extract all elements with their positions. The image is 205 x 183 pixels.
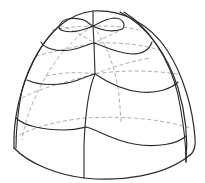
contour-4 xyxy=(16,118,186,146)
contour-3 xyxy=(27,74,178,92)
base-rim xyxy=(14,148,190,179)
hidden-lines-group xyxy=(14,25,190,140)
visible-lines-group xyxy=(16,11,186,178)
outline-group xyxy=(14,11,195,179)
hidden-junction-left xyxy=(46,73,95,76)
front-meridian-lower xyxy=(84,74,95,178)
inner-right-edge xyxy=(120,12,187,162)
dome-wireframe-diagram xyxy=(0,0,205,183)
hidden-meridian-left xyxy=(22,26,93,140)
silhouette xyxy=(14,11,195,155)
top-lobe-contour xyxy=(59,18,124,32)
contour-2 xyxy=(41,42,152,54)
